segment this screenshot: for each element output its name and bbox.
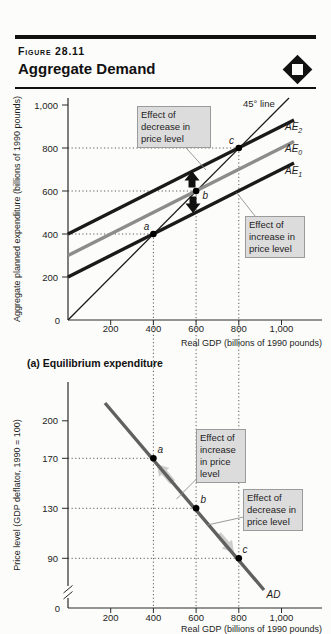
x-tick-label: 200 <box>103 612 119 623</box>
origin-label: 0 <box>55 315 60 326</box>
point-a <box>150 231 157 238</box>
x-tick-label: 600 <box>188 323 204 334</box>
x-axis-title: Real GDP (billions of 1990 pounds) <box>181 338 322 348</box>
textbook-figure: Figure 28.11 Aggregate Demand <box>0 0 331 634</box>
point-c <box>236 555 243 562</box>
point-b-label: b <box>203 190 209 201</box>
charts-canvas: 1,000 800 600 400 200 0 200 400 600 800 … <box>0 0 331 634</box>
x-tick-label: 400 <box>145 612 161 623</box>
point-a-label: a <box>144 221 150 232</box>
x-tick-label: 800 <box>231 323 247 334</box>
callout-decrease-price-level-bottom: Effect of decrease in price level <box>243 489 303 531</box>
point-b <box>193 188 200 195</box>
y-tick-label: 800 <box>42 143 58 154</box>
point-b-label: b <box>201 494 207 505</box>
x-tick-label: 400 <box>145 323 161 334</box>
y-axis-title: Aggregate planned expenditure (billions … <box>12 96 22 322</box>
ad-label: AD <box>266 589 281 600</box>
y-tick-label: 400 <box>42 229 58 240</box>
origin-label: 0 <box>55 603 60 614</box>
x-axis-title: Real GDP (billions of 1990 pounds) <box>181 624 322 634</box>
point-a-label: a <box>158 444 164 455</box>
x-tick-label: 600 <box>188 612 204 623</box>
y-tick-label: 200 <box>42 415 58 426</box>
y-tick-label: 90 <box>47 553 58 564</box>
45-degree-line-label: 45° line <box>243 98 275 109</box>
point-b <box>193 505 200 512</box>
panel-a-caption: (a) Equilibrium expenditure <box>27 357 163 369</box>
leader-decrease-bottom <box>208 517 244 525</box>
callout-decrease-price-level-top: Effect of decrease in price level <box>137 106 211 148</box>
x-tick-label: 200 <box>103 323 119 334</box>
point-c <box>236 145 243 152</box>
y-axis-title: Price level (GDP deflator, 1990 = 100) <box>12 419 22 571</box>
ae2-label: AE2 <box>284 121 302 134</box>
dotted-guides <box>68 148 239 608</box>
x-tick-label: 1,000 <box>270 612 294 623</box>
ae0-label: AE0 <box>284 143 302 156</box>
y-tick-label: 1,000 <box>34 100 58 111</box>
y-tick-label: 200 <box>42 272 58 283</box>
point-c-label: c <box>229 135 234 146</box>
y-tick-label: 170 <box>42 453 58 464</box>
y-tick-label: 600 <box>42 186 58 197</box>
callout-increase-price-level-top: Effect of increase in price level <box>245 216 305 258</box>
point-a <box>150 455 157 462</box>
x-tick-label: 800 <box>231 612 247 623</box>
y-tick-label: 130 <box>42 503 58 514</box>
x-tick-label: 1,000 <box>270 323 294 334</box>
point-c-label: c <box>243 544 248 555</box>
leader-increase-top <box>237 193 258 219</box>
callout-increase-price-level-bottom: Effect of increase in price level <box>196 429 246 483</box>
ae1-label: AE1 <box>284 165 302 178</box>
